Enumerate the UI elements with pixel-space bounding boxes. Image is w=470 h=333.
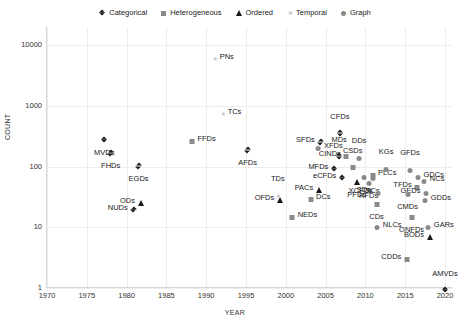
data-point-label: CDDs [381, 253, 401, 261]
y-tick-label: 10000 [21, 42, 42, 50]
legend-label: Graph [350, 9, 371, 17]
marker-circle-icon [341, 11, 346, 16]
data-point-egds: EGDs [136, 155, 142, 173]
x-gridline [127, 27, 128, 287]
marker-diamond-icon [131, 203, 137, 209]
data-point-label: NUDs [108, 204, 128, 212]
legend-item-temporal: Temporal [287, 9, 327, 17]
marker-square-icon [404, 257, 409, 262]
marker-diamond-icon [101, 133, 107, 139]
data-point-cdds: CDDs [404, 248, 409, 266]
marker-square-icon [374, 202, 379, 207]
marker-diamond-icon [99, 7, 105, 13]
x-gridline [47, 27, 48, 287]
data-point-fhds: FHDs [108, 142, 114, 160]
data-point-ecfds: eCFDs [339, 167, 345, 185]
data-point-label: AMVDs [432, 270, 457, 278]
data-point-label: GFDs [400, 149, 420, 157]
data-point-label: FFDs [197, 135, 215, 143]
legend-item-heterogeneous: Heterogeneous [161, 9, 221, 17]
data-point-tds: TDs [275, 185, 280, 203]
marker-temporal-icon [220, 112, 225, 117]
marker-diamond-icon [442, 284, 448, 290]
data-point-kgs: KGs [384, 158, 389, 176]
data-point-nuds: NUDs [131, 199, 137, 217]
x-gridline [206, 27, 207, 287]
marker-diamond-icon [337, 127, 343, 133]
data-point-gdds: GDDs [423, 189, 428, 207]
marker-square-icon [308, 197, 313, 202]
data-point-label: TCs [228, 108, 242, 116]
data-point-label: DDs [352, 137, 367, 145]
data-point-label: PACs [295, 184, 314, 192]
data-point-label: NEDs [298, 211, 318, 219]
marker-triangle-icon [138, 200, 144, 206]
data-point-label: SFDs [296, 137, 315, 145]
legend-item-categorical: Categorical [99, 9, 147, 17]
marker-temporal-icon [287, 11, 292, 16]
marker-diamond-icon [245, 144, 251, 150]
marker-temporal-icon [212, 57, 217, 62]
data-point-label: NCs [430, 175, 445, 183]
marker-circle-icon [408, 168, 413, 173]
data-point-pns: PNs [212, 48, 217, 66]
data-point-amvds: AMVDs [442, 279, 448, 297]
x-tick-label: 1980 [118, 292, 135, 300]
data-point-label: CMDs [397, 203, 418, 211]
x-gridline [365, 27, 366, 287]
data-point-label: CINDs [319, 150, 341, 158]
data-point-label: GEDs [400, 187, 420, 195]
chart-legend: CategoricalHeterogeneousOrderedTemporalG… [0, 4, 470, 22]
legend-label: Heterogeneous [170, 9, 221, 17]
x-tick-label: 2005 [317, 292, 334, 300]
data-point-label: CFDs [330, 113, 349, 121]
y-tick-label: 1000 [25, 102, 42, 110]
data-point-label: EGDs [129, 175, 149, 183]
x-tick-label: 1975 [78, 292, 95, 300]
x-gridline [286, 27, 287, 287]
legend-label: Categorical [109, 9, 147, 17]
legend-item-graph: Graph [341, 9, 371, 17]
data-point-cds: CDs [374, 193, 379, 211]
marker-diamond-icon [108, 147, 114, 153]
marker-diamond-icon [339, 172, 345, 178]
y-gridline [47, 288, 452, 289]
data-point-label: TDs [271, 175, 285, 183]
data-point-ffds: FFDs [189, 130, 194, 148]
x-tick-label: 1985 [158, 292, 175, 300]
data-point-label: OFDs [255, 195, 275, 203]
y-axis-title: COUNT [4, 114, 11, 140]
marker-square-icon [409, 215, 414, 220]
marker-triangle-icon [236, 10, 242, 16]
marker-triangle-icon [316, 187, 322, 193]
x-tick-label: 2015 [397, 292, 414, 300]
marker-square-icon [189, 139, 194, 144]
data-point-label: MDs [331, 136, 346, 144]
data-point-nlcs: NLCs [375, 216, 380, 234]
data-point-bods: BODs [427, 226, 433, 244]
marker-square-icon [290, 215, 295, 220]
data-point-label: GDDs [431, 195, 451, 203]
y-tick-label: 1 [38, 284, 42, 292]
marker-square-icon [350, 165, 355, 170]
legend-item-ordered: Ordered [236, 9, 274, 17]
legend-label: Ordered [246, 9, 274, 17]
data-point-ods: ODs [138, 192, 144, 210]
data-point-neds: NEDs [290, 206, 295, 224]
x-tick-label: 1990 [198, 292, 215, 300]
x-tick-label: 2010 [357, 292, 374, 300]
marker-circle-icon [405, 192, 410, 197]
x-gridline [445, 27, 446, 287]
data-point-pacs: PACs [316, 179, 322, 197]
x-tick-label: 2000 [277, 292, 294, 300]
x-tick-label: 1970 [39, 292, 56, 300]
data-point-tcs: TCs [220, 103, 225, 121]
scatter-chart: CategoricalHeterogeneousOrderedTemporalG… [0, 0, 470, 333]
data-point-dds: DDs [357, 147, 362, 165]
marker-circle-icon [384, 167, 389, 172]
marker-circle-icon [375, 225, 380, 230]
marker-triangle-icon [354, 179, 360, 185]
marker-circle-icon [357, 156, 362, 161]
data-point-label: GARs [434, 221, 454, 229]
data-point-cmds: CMDs [405, 183, 410, 201]
